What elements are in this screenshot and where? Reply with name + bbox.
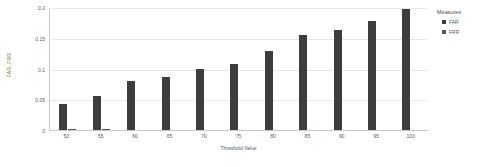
x-tick-label: 75 <box>221 133 255 143</box>
bar-group <box>153 8 187 130</box>
legend-item-label: FRR <box>449 29 459 35</box>
x-tick-label: 65 <box>152 133 186 143</box>
legend-items: FARFRR <box>437 19 484 35</box>
bar-group <box>359 8 393 130</box>
bar-group <box>187 8 221 130</box>
x-tick-label: 80 <box>256 133 290 143</box>
y-axis-title: FAR, FRR <box>0 0 18 130</box>
bar-far[interactable] <box>368 21 376 130</box>
plot-area <box>49 8 428 131</box>
x-tick-label: 60 <box>118 133 152 143</box>
y-axis-title-label: FAR, FRR <box>6 53 12 77</box>
legend: Measures FARFRR <box>437 9 484 39</box>
bar-far[interactable] <box>402 9 410 130</box>
bar-far[interactable] <box>196 69 204 130</box>
bar-frr[interactable] <box>102 129 110 130</box>
bar-group <box>291 8 325 130</box>
bar-far[interactable] <box>265 51 273 130</box>
y-axis-tick-labels: 00.050.10.150.2 <box>18 8 48 131</box>
x-tick-label: 55 <box>83 133 117 143</box>
x-tick-label: 85 <box>290 133 324 143</box>
x-tick-label: 90 <box>325 133 359 143</box>
legend-title: Measures <box>437 9 484 15</box>
bar-group <box>394 8 428 130</box>
bar-group <box>119 8 153 130</box>
y-tick-label: 0 <box>42 128 45 134</box>
x-tick-label: 70 <box>187 133 221 143</box>
bar-group <box>256 8 290 130</box>
bar-group <box>325 8 359 130</box>
bar-frr[interactable] <box>68 129 76 130</box>
bar-far[interactable] <box>334 30 342 130</box>
bar-far[interactable] <box>93 96 101 130</box>
bars-layer <box>50 8 428 130</box>
bar-far[interactable] <box>127 81 135 130</box>
legend-item[interactable]: FRR <box>442 29 484 35</box>
legend-item-label: FAR <box>449 19 459 25</box>
y-tick-label: 0.2 <box>38 5 45 11</box>
legend-item[interactable]: FAR <box>442 19 484 25</box>
legend-swatch-icon <box>442 20 446 24</box>
x-axis-title: Threshold Value <box>49 145 428 151</box>
y-tick-label: 0.15 <box>35 36 45 42</box>
bar-far[interactable] <box>299 35 307 130</box>
x-tick-label: 95 <box>359 133 393 143</box>
x-tick-label: 50 <box>49 133 83 143</box>
bar-far[interactable] <box>59 104 67 130</box>
legend-swatch-icon <box>442 30 446 34</box>
bar-group <box>84 8 118 130</box>
bar-chart: FAR, FRR 00.050.10.150.2 505560657075808… <box>0 0 484 167</box>
y-tick-label: 0.05 <box>35 97 45 103</box>
bar-far[interactable] <box>162 77 170 130</box>
bar-far[interactable] <box>230 64 238 130</box>
x-axis-tick-labels: 50556065707580859095100 <box>49 133 428 143</box>
x-tick-label: 100 <box>394 133 428 143</box>
y-tick-label: 0.1 <box>38 67 45 73</box>
bar-group <box>50 8 84 130</box>
bar-group <box>222 8 256 130</box>
